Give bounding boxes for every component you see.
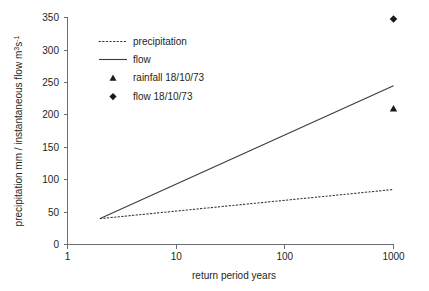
legend-label-precipitation: precipitation [133,36,187,47]
y-axis-title: precipitation mm / instantaneous flow m3… [13,36,25,227]
y-tick-label-250: 250 [42,77,59,88]
legend-label-flow-event: flow 18/10/73 [133,91,193,102]
y-tick-label-50: 50 [48,207,60,218]
chart-container: 0 50 100 150 200 250 300 350 1 10 100 10… [0,0,429,291]
y-tick-label-0: 0 [53,239,59,250]
chart-background [0,0,429,291]
y-tick-label-350: 350 [42,12,59,23]
x-axis-title: return period years [192,270,276,281]
svg-text:precipitation mm / instantane: precipitation mm / instantaneous flow m3… [13,36,25,227]
y-tick-label-300: 300 [42,45,59,56]
y-tick-label-200: 200 [42,109,59,120]
x-tick-label-1000: 1000 [382,251,405,262]
x-tick-label-10: 10 [171,251,183,262]
y-axis-title-sup-inverse: -1 [13,36,20,42]
y-axis-title-main: precipitation mm / instantaneous flow m [13,51,24,227]
y-tick-label-150: 150 [42,142,59,153]
x-tick-label-100: 100 [276,251,293,262]
legend-label-flow: flow [133,54,152,65]
x-tick-label-1: 1 [65,251,71,262]
chart-plot-area: 0 50 100 150 200 250 300 350 1 10 100 10… [0,0,429,291]
legend-label-rainfall: rainfall 18/10/73 [133,72,205,83]
y-tick-label-100: 100 [42,174,59,185]
